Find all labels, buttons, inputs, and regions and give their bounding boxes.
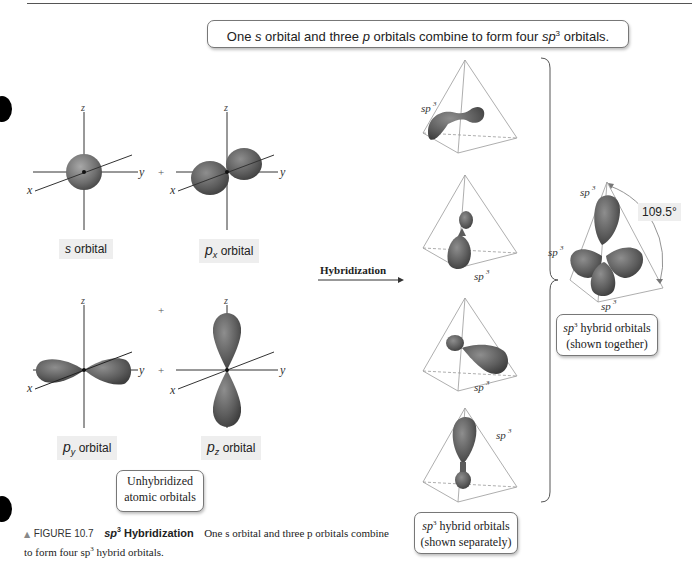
figure-title: sp3 Hybridization (104, 527, 193, 539)
svg-text:+: + (158, 364, 164, 376)
svg-text:3: 3 (612, 298, 617, 306)
sp3-separate-caption: sp3 hybrid orbitals (shown separately) (414, 512, 518, 554)
svg-text:y: y (279, 165, 286, 179)
caption-text: hybrid orbitals. (94, 545, 164, 557)
label-rest: orbital (75, 441, 111, 455)
svg-text:+: + (158, 304, 164, 316)
svg-text:y: y (138, 165, 145, 179)
svg-text:x: x (169, 383, 176, 397)
s-orbital-figure: z y x (26, 102, 145, 230)
tetrahedron-3: sp 3 (423, 298, 517, 393)
tetrahedron-2: sp 3 (423, 175, 517, 282)
svg-text:sp: sp (601, 300, 611, 312)
svg-text:sp: sp (421, 102, 431, 114)
sp3-together-figure: sp 3 sp 3 sp 3 (548, 182, 663, 312)
grouping-brace (541, 58, 558, 502)
figure-number: FIGURE 10.7 (34, 528, 94, 539)
caption-line: atomic orbitals (117, 489, 203, 505)
hybridization-label: Hybridization (320, 264, 386, 276)
svg-text:z: z (80, 102, 85, 113)
sp3-together-caption: sp3 hybrid orbitals (shown together) (556, 314, 658, 356)
svg-text:x: x (26, 183, 33, 197)
caption-sp: sp (422, 519, 433, 533)
svg-text:3: 3 (432, 100, 437, 108)
pz-orbital-figure: z y x (169, 295, 286, 428)
svg-text:+: + (158, 166, 164, 178)
label-main: p (207, 439, 215, 455)
label-main: p (205, 242, 213, 258)
svg-text:sp: sp (548, 246, 558, 258)
svg-text:3: 3 (485, 379, 490, 387)
svg-text:3: 3 (507, 427, 512, 435)
pz-orbital-label: pz orbital (201, 436, 261, 460)
label-rest: orbital (71, 242, 107, 256)
py-orbital-figure: z y x (26, 295, 145, 428)
svg-text:y: y (279, 363, 286, 377)
svg-text:3: 3 (559, 244, 564, 252)
hybridization-arrow (318, 277, 404, 283)
caption-line: (shown together) (557, 336, 657, 352)
svg-text:z: z (80, 295, 85, 306)
tetrahedron-1: sp 3 (421, 60, 517, 153)
svg-text:y: y (138, 363, 145, 377)
caption-text: to form four sp (24, 545, 90, 557)
bond-angle-label: 109.5° (638, 203, 681, 221)
svg-text:sp: sp (474, 381, 484, 393)
svg-text:sp: sp (496, 429, 506, 441)
svg-text:sp: sp (474, 270, 484, 282)
caption-line: (shown separately) (415, 534, 517, 550)
figure-caption-line1: ▲ FIGURE 10.7 sp3 Hybridization One s or… (24, 522, 404, 542)
caption-sp: sp (563, 321, 574, 335)
title-rest: Hybridization (121, 527, 194, 539)
py-orbital-label: py orbital (57, 436, 117, 460)
title-sp: sp (104, 527, 117, 539)
caption-line: sp3 hybrid orbitals (557, 317, 657, 336)
s-orbital-label: s orbital (59, 239, 113, 259)
label-rest: orbital (217, 244, 253, 258)
svg-text:z: z (223, 102, 228, 113)
svg-text:3: 3 (591, 184, 596, 192)
label-rest: orbital (219, 441, 255, 455)
figure-caption: ▲ FIGURE 10.7 sp3 Hybridization One s or… (24, 522, 404, 559)
px-orbital-label: px orbital (199, 239, 259, 263)
label-main: p (63, 439, 71, 455)
svg-text:x: x (169, 183, 176, 197)
figure-caption-line2: to form four sp3 hybrid orbitals. (24, 542, 404, 560)
orbital-diagram: z y x + z y x + z y x + z y x (0, 0, 692, 566)
svg-text:3: 3 (485, 268, 490, 276)
px-orbital-figure: z y x (169, 102, 286, 230)
caption-rest: hybrid orbitals (436, 519, 509, 533)
caption-line: sp3 hybrid orbitals (415, 515, 517, 534)
svg-text:x: x (26, 381, 33, 395)
svg-text:z: z (223, 295, 228, 306)
tetrahedron-4: sp 3 (423, 408, 517, 502)
caption-marker-icon: ▲ (24, 530, 30, 539)
caption-line: Unhybridized (117, 473, 203, 489)
caption-text: One s orbital and three p orbitals combi… (204, 527, 389, 539)
caption-rest: hybrid orbitals (577, 321, 650, 335)
svg-text:sp: sp (580, 186, 590, 198)
unhybridized-caption: Unhybridized atomic orbitals (116, 470, 204, 512)
